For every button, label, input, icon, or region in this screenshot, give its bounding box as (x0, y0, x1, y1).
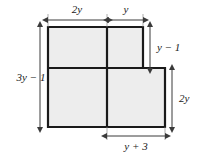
shape-group (48, 27, 165, 127)
label-top-left: 2y (72, 3, 83, 15)
label-right-lower: 2y (179, 92, 190, 104)
label-bottom-width: y + 3 (123, 140, 148, 152)
label-left-height: 3y − 1 (16, 71, 46, 83)
label-top-right: y (123, 3, 129, 15)
figure-canvas: 2y y 3y − 1 y − 1 2y y + 3 (0, 0, 198, 157)
label-right-upper: y − 1 (156, 41, 180, 53)
geometry-figure: 2y y 3y − 1 y − 1 2y y + 3 (0, 0, 198, 157)
